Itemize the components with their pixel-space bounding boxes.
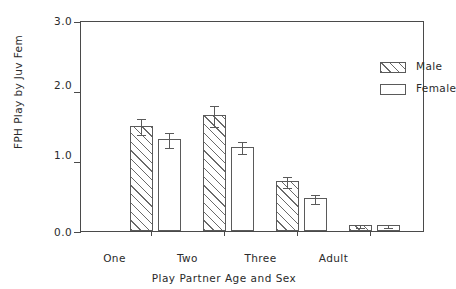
bar-one-female[interactable]: [158, 139, 181, 231]
error-bar-cap-top: [356, 225, 365, 226]
y-tick-label-0: 0.0: [32, 226, 72, 238]
y-tick-mark-3: [74, 22, 81, 23]
x-tick-mark-two: [224, 231, 225, 236]
plot-area: Male Female: [80, 21, 424, 232]
error-bar-cap-top: [311, 195, 320, 196]
error-bar-stem: [141, 119, 142, 136]
bar-two-female[interactable]: [231, 147, 254, 231]
error-bar-cap-bottom: [283, 188, 292, 189]
bar-one-male[interactable]: [130, 126, 153, 232]
legend-swatch-male-icon: [380, 62, 406, 73]
error-bar-cap-bottom: [137, 135, 146, 136]
error-bar-adult-female: [384, 225, 393, 229]
y-tick-mark-1: [74, 162, 81, 163]
legend-swatch-female-icon: [380, 84, 406, 95]
y-tick-label-2: 2.0: [32, 79, 72, 91]
y-tick-mark-0: [74, 232, 81, 233]
error-bar-cap-bottom: [238, 154, 247, 155]
x-tick-label-adult: Adult: [299, 252, 369, 264]
error-bar-three-male: [283, 177, 292, 190]
error-bar-cap-bottom: [356, 228, 365, 229]
error-bar-stem: [169, 133, 170, 149]
bar-two-male[interactable]: [203, 115, 226, 231]
x-tick-label-three: Three: [226, 252, 296, 264]
error-bar-cap-bottom: [384, 228, 393, 229]
x-axis-title: Play Partner Age and Sex: [0, 272, 448, 284]
legend-label-female: Female: [416, 82, 456, 94]
error-bar-cap-top: [137, 119, 146, 120]
x-axis-tick-labels: One Two Three Adult: [0, 252, 448, 268]
error-bar-one-male: [137, 119, 146, 136]
error-bar-cap-top: [238, 142, 247, 143]
x-tick-label-one: One: [80, 252, 150, 264]
error-bar-two-male: [210, 106, 219, 129]
y-tick-label-3: 3.0: [32, 15, 72, 27]
y-tick-label-1: 1.0: [32, 149, 72, 161]
error-bar-cap-bottom: [165, 148, 174, 149]
error-bar-three-female: [311, 195, 320, 205]
error-bar-cap-bottom: [311, 204, 320, 205]
x-tick-mark-one: [151, 231, 152, 236]
y-axis-tick-labels: 0.0 1.0 2.0 3.0: [0, 0, 80, 289]
error-bar-two-female: [238, 142, 247, 155]
error-bar-cap-top: [210, 106, 219, 107]
x-tick-label-two: Two: [153, 252, 223, 264]
y-tick-mark-2: [74, 92, 81, 93]
error-bar-cap-top: [283, 177, 292, 178]
error-bar-adult-male: [356, 225, 365, 229]
x-tick-mark-adult: [370, 231, 371, 236]
error-bar-cap-bottom: [210, 127, 219, 128]
error-bar-stem: [214, 106, 215, 129]
error-bar-cap-top: [384, 225, 393, 226]
error-bar-one-female: [165, 133, 174, 149]
legend-label-male: Male: [416, 60, 442, 72]
error-bar-cap-top: [165, 133, 174, 134]
x-tick-mark-three: [297, 231, 298, 236]
